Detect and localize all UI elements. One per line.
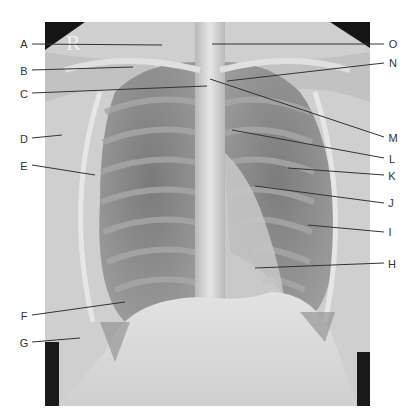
label-m: M	[388, 133, 397, 144]
chest-xray-image: R	[45, 22, 370, 406]
label-j: J	[388, 198, 394, 209]
label-a: A	[20, 39, 27, 50]
label-g: G	[20, 338, 29, 349]
label-e: E	[20, 161, 27, 172]
label-i: I	[388, 227, 391, 238]
label-c: C	[20, 89, 28, 100]
label-b: B	[20, 66, 27, 77]
label-n: N	[389, 58, 397, 69]
label-f: F	[21, 311, 28, 322]
label-l: L	[389, 154, 395, 165]
label-d: D	[20, 134, 28, 145]
label-k: K	[388, 171, 395, 182]
right-side-marker: R	[66, 32, 81, 54]
label-o: O	[389, 39, 398, 50]
xray-rendering	[45, 22, 370, 406]
label-h: H	[388, 259, 396, 270]
